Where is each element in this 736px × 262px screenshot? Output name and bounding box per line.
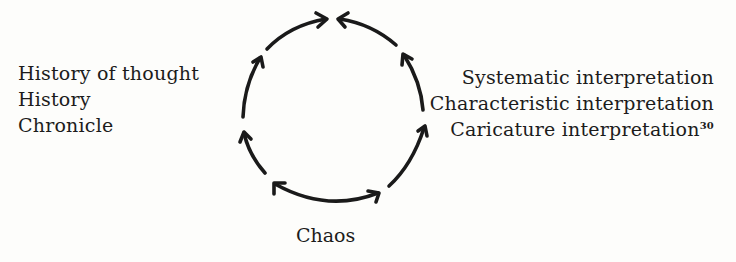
label-history: History: [18, 86, 199, 112]
left-label-group: History of thought History Chronicle: [18, 60, 199, 138]
arrow-upper-left-to-top: [267, 13, 327, 49]
arrow-right-to-upper-right: [402, 54, 423, 110]
label-caricature-interpretation-row: Caricature interpretation30: [430, 116, 714, 142]
label-caricature-interpretation: Caricature interpretation: [450, 118, 699, 140]
arrow-upper-right-to-top: [338, 13, 396, 45]
label-chronicle: Chronicle: [18, 112, 199, 138]
arrow-left-to-upper-left: [243, 57, 263, 117]
label-chaos: Chaos: [296, 224, 355, 246]
label-systematic-interpretation: Systematic interpretation: [430, 64, 714, 90]
arrow-lower-right-to-right: [389, 126, 427, 186]
label-history-of-thought: History of thought: [18, 60, 199, 86]
footnote-marker: 30: [700, 120, 714, 131]
arrow-bottom-bidirectional: [274, 183, 379, 202]
label-characteristic-interpretation: Characteristic interpretation: [430, 90, 714, 116]
right-label-group: Systematic interpretation Characteristic…: [430, 64, 714, 142]
arrow-lower-left-to-left: [240, 132, 265, 173]
